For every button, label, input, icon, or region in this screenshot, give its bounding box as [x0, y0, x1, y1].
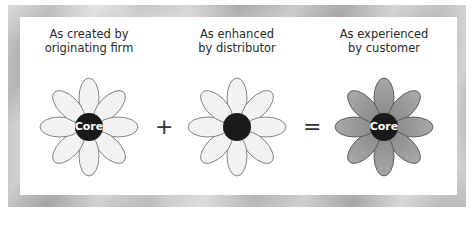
equals-operator: = — [303, 116, 321, 138]
flower-customer: Core — [334, 77, 434, 177]
stage-1-heading: As created by originating firm — [19, 27, 159, 55]
flower-icon — [187, 77, 287, 177]
flower-distributor — [187, 77, 287, 177]
stage-2-heading: As enhanced by distributor — [167, 27, 307, 55]
stage-3-heading-line2: by customer — [314, 41, 454, 55]
core-label: Core — [334, 120, 434, 133]
stage-1-heading-line1: As created by — [19, 27, 159, 41]
stage-3-heading: As experienced by customer — [314, 27, 454, 55]
stage-3-heading-line1: As experienced — [314, 27, 454, 41]
plus-operator: + — [155, 116, 173, 138]
stage-2-heading-line2: by distributor — [167, 41, 307, 55]
flower-originating-firm: Core — [39, 77, 139, 177]
core-label: Core — [39, 120, 139, 133]
stage-2-heading-line1: As enhanced — [167, 27, 307, 41]
stage-1-heading-line2: originating firm — [19, 41, 159, 55]
